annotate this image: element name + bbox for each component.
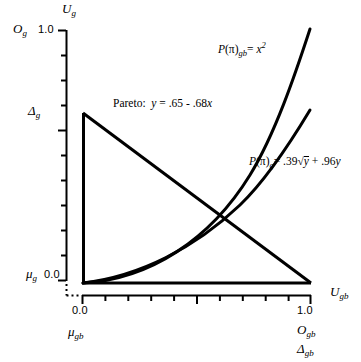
x-axis-group bbox=[82, 295, 311, 304]
axis-connector-dotted bbox=[67, 284, 82, 296]
x-axis-right-symbol-delta: Δgb bbox=[297, 342, 314, 355]
y-axis-bottom-value: 0.0 bbox=[44, 269, 60, 280]
x-axis-right-symbol-o: Ogb bbox=[297, 323, 315, 336]
pareto-triangle bbox=[82, 113, 311, 283]
square-root-icon: √y bbox=[298, 155, 309, 168]
y-axis-top-value: 1.0 bbox=[38, 24, 54, 35]
x-axis-title: Ugb bbox=[330, 285, 348, 298]
y-axis-group bbox=[58, 30, 67, 281]
x-axis-left-symbol: μgb bbox=[68, 325, 84, 338]
y-axis-title: Ug bbox=[62, 2, 76, 15]
pareto-equation-label: Pareto: y = .65 - .68x bbox=[113, 98, 212, 110]
y-axis-bottom-symbol: μg bbox=[26, 267, 37, 280]
y-axis-top-symbol: Og bbox=[13, 22, 27, 35]
pareto-line bbox=[83, 113, 311, 283]
x-axis-right-value: 1.0 bbox=[297, 305, 313, 316]
curve-gb-equation-label: P(π)gb= x2 bbox=[218, 44, 266, 56]
curve-g-equation-label: P(π)g= .39√y + .96y bbox=[249, 155, 341, 168]
y-axis-mid-symbol: Δg bbox=[28, 104, 40, 117]
x-axis-left-value: 0.0 bbox=[72, 305, 88, 316]
bargaining-set-figure: Og 1.0 Ug Δg μg 0.0 0.0 μgb 1.0 Ugb Ogb … bbox=[0, 0, 361, 362]
